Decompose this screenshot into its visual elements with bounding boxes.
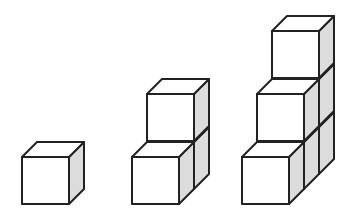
cube	[147, 79, 209, 141]
cube-staircase-diagram	[0, 0, 347, 223]
cube	[132, 142, 194, 204]
cube	[257, 79, 319, 141]
cube-front-face	[132, 157, 179, 204]
cube-front-face	[147, 94, 194, 141]
cube-front-face	[22, 157, 69, 204]
figure-3-six-cubes	[242, 16, 334, 204]
cube-front-face	[272, 31, 319, 78]
cube-front-face	[257, 94, 304, 141]
cube	[22, 142, 84, 204]
cube-front-face	[242, 157, 289, 204]
cube	[242, 142, 304, 204]
figure-1-one-cube	[22, 142, 84, 204]
cube	[272, 16, 334, 78]
figure-2-three-cubes	[132, 79, 209, 204]
